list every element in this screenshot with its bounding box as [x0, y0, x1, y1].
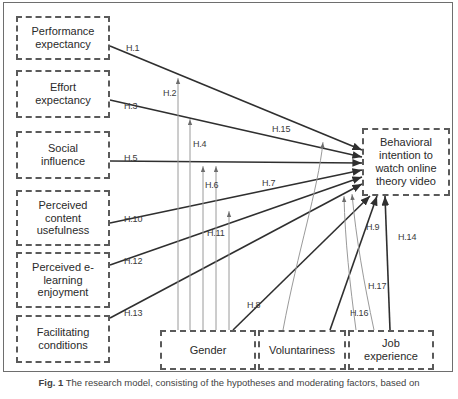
hypothesis-label-H.4: H.4: [193, 139, 206, 149]
node-label-social-influence: Socialinfluence: [41, 142, 85, 168]
node-effort-expectancy[interactable]: Effortexpectancy: [16, 70, 110, 118]
hypothesis-label-H.7: H.7: [262, 178, 275, 188]
hypothesis-label-H.1: H.1: [126, 43, 139, 53]
node-label-facilitating-conditions: Facilitatingconditions: [37, 326, 90, 352]
node-facilitating-conditions[interactable]: Facilitatingconditions: [16, 315, 110, 363]
hypothesis-label-H.11: H.11: [207, 228, 225, 238]
research-model-figure: Performanceexpectancy Effortexpectancy S…: [0, 0, 458, 399]
node-perceived-elearning-enjoyment[interactable]: Perceived e-learningenjoyment: [16, 252, 110, 308]
figure-caption-text: The research model, consisting of the hy…: [66, 377, 420, 388]
figure-caption-prefix: Fig. 1: [38, 377, 63, 388]
node-social-influence[interactable]: Socialinfluence: [16, 131, 110, 179]
hypothesis-label-H.13: H.13: [124, 308, 142, 318]
hypothesis-label-H.5: H.5: [124, 153, 137, 163]
hypothesis-label-H.14: H.14: [398, 232, 416, 242]
node-gender[interactable]: Gender: [160, 330, 256, 370]
node-label-perceived-elearning-enjoyment: Perceived e-learningenjoyment: [32, 261, 94, 300]
hypothesis-label-H.3: H.3: [124, 101, 137, 111]
hypothesis-label-H.2: H.2: [163, 88, 176, 98]
hypothesis-label-H.10: H.10: [124, 214, 142, 224]
figure-caption: Fig. 1 The research model, consisting of…: [0, 377, 458, 399]
hypothesis-label-H.8: H.8: [247, 300, 260, 310]
node-behavioral-intention[interactable]: Behavioralintention towatch onlinetheory…: [362, 128, 450, 196]
node-job-experience[interactable]: Jobexperience: [348, 330, 434, 370]
node-label-job-experience: Jobexperience: [364, 337, 418, 363]
hypothesis-label-H.6: H.6: [205, 180, 218, 190]
hypothesis-label-H.17: H.17: [368, 281, 386, 291]
node-label-voluntariness: Voluntariness: [269, 344, 335, 357]
hypothesis-label-H.15: H.15: [272, 124, 290, 134]
node-label-gender: Gender: [190, 344, 227, 357]
node-voluntariness[interactable]: Voluntariness: [258, 330, 346, 370]
node-label-performance-expectancy: Performanceexpectancy: [32, 25, 95, 51]
hypothesis-label-H.12: H.12: [124, 256, 142, 266]
hypothesis-label-H.9: H.9: [366, 222, 379, 232]
node-perceived-content-usefulness[interactable]: Perceivedcontentusefulness: [16, 190, 110, 246]
node-label-behavioral-intention: Behavioralintention towatch onlinetheory…: [375, 136, 436, 188]
hypothesis-label-H.16: H.16: [350, 308, 368, 318]
node-label-perceived-content-usefulness: Perceivedcontentusefulness: [37, 199, 90, 238]
node-label-effort-expectancy: Effortexpectancy: [35, 81, 91, 107]
node-performance-expectancy[interactable]: Performanceexpectancy: [16, 16, 110, 60]
